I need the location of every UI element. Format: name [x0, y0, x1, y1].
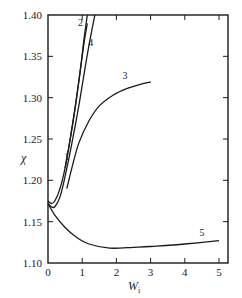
- y-tick-label: 1.40: [23, 9, 43, 21]
- y-tick-label: 1.15: [23, 216, 43, 228]
- x-tick-label: 1: [79, 266, 85, 278]
- chart-canvas: 1.101.151.201.251.301.351.40 012345 1243…: [0, 0, 242, 298]
- curve-label-2: 2: [78, 17, 83, 28]
- x-tick-label: 5: [216, 266, 222, 278]
- curve-3: [67, 82, 151, 189]
- x-tick-label: 4: [182, 266, 188, 278]
- x-tick-label: 0: [45, 266, 51, 278]
- y-tick-labels: 1.101.151.201.251.301.351.40: [23, 9, 43, 269]
- curve-label-4: 4: [88, 37, 93, 48]
- x-tick-label: 2: [114, 266, 120, 278]
- curve-1: [48, 15, 87, 204]
- data-curves: [48, 15, 219, 248]
- y-tick-label: 1.35: [23, 50, 43, 62]
- y-tick-label: 1.10: [23, 257, 43, 269]
- curve-label-3: 3: [122, 70, 127, 81]
- x-tick-labels: 012345: [45, 266, 222, 278]
- curve-5: [48, 204, 219, 249]
- y-tick-label: 1.25: [23, 133, 43, 145]
- y-axis-title: χ: [20, 151, 27, 165]
- x-tick-label: 3: [148, 266, 154, 278]
- curve-label-5: 5: [199, 227, 204, 238]
- y-tick-label: 1.20: [23, 174, 43, 186]
- x-axis-title: Wi: [128, 279, 141, 295]
- curve-2: [65, 23, 87, 168]
- curve-label-1: 1: [64, 151, 69, 162]
- y-tick-label: 1.30: [23, 92, 43, 104]
